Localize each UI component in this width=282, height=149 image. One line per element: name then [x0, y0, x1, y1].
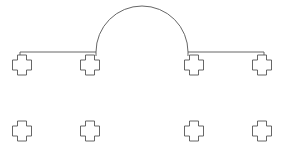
- diagram-background: [0, 0, 282, 149]
- diagram-canvas: [0, 0, 282, 149]
